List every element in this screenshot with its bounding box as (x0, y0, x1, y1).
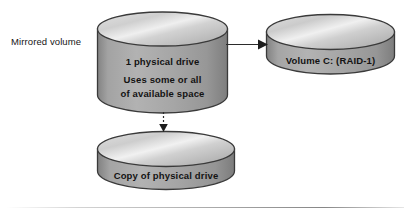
target-volume-cylinder: Volume C: (RAID-1) (265, 13, 396, 77)
scan-edge-artifact (6, 207, 404, 208)
connector-source-to-copy (157, 112, 170, 133)
source-drive-cylinder: 1 physical drive Uses some or all of ava… (96, 11, 229, 116)
connector-source-to-volume (226, 38, 270, 51)
arrowhead-right-icon (258, 40, 268, 50)
mirror-copy-cylinder: Copy of physical drive (96, 130, 236, 192)
arrowhead-down-icon (159, 124, 168, 132)
mirrored-volume-label: Mirrored volume (11, 36, 95, 48)
cylinder-top (98, 132, 235, 167)
cylinder-top (267, 15, 395, 50)
cylinder-top (98, 12, 228, 46)
diagram-canvas: Mirrored volume (0, 0, 410, 209)
